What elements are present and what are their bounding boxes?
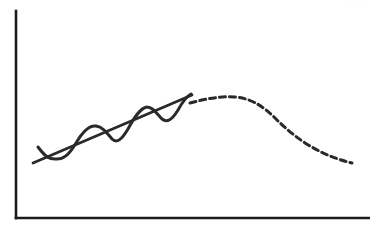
series-trend-line (33, 95, 192, 163)
chart-canvas (0, 0, 370, 230)
chart-figure: ··· ·· (0, 0, 370, 230)
series-forecast-line (190, 97, 352, 163)
